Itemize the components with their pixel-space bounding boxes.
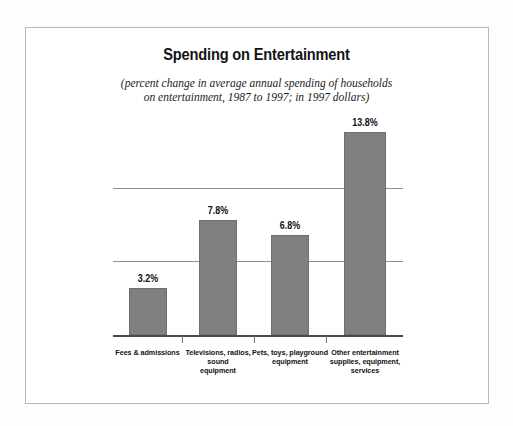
category-label: Other entertainment supplies, equipment,… bbox=[325, 348, 405, 376]
bar-value-label: 7.8% bbox=[208, 204, 228, 216]
bar-value-label: 6.8% bbox=[280, 219, 300, 231]
bar-value-label: 13.8% bbox=[352, 116, 377, 128]
category-label-line: services bbox=[351, 366, 379, 375]
bar-group: 3.2% bbox=[113, 110, 182, 335]
chart-figure: Spending on Entertainment (percent chang… bbox=[0, 0, 513, 426]
category-label-line: equipment bbox=[200, 366, 236, 375]
plot-area: 3.2% 7.8% 6.8% 13.8% Fees & admissions T… bbox=[113, 110, 403, 336]
x-axis-line bbox=[113, 335, 403, 337]
bar[interactable] bbox=[199, 220, 237, 335]
category-label: Pets, toys, playground equipment bbox=[249, 348, 331, 366]
bar[interactable] bbox=[129, 288, 167, 335]
category-label-line: Other entertainment bbox=[331, 348, 399, 357]
category-label-line: Fees & admissions bbox=[115, 348, 179, 357]
chart-subtitle-line-1: (percent change in average annual spendi… bbox=[0, 76, 513, 90]
category-label-line: Televisions, radios, sound bbox=[185, 348, 250, 366]
bar[interactable] bbox=[271, 235, 309, 335]
bar-group: 6.8% bbox=[254, 110, 326, 335]
category-label-line: Pets, toys, playground bbox=[252, 348, 328, 357]
chart-subtitle: (percent change in average annual spendi… bbox=[0, 76, 513, 104]
category-label-line: equipment bbox=[272, 357, 308, 366]
chart-title: Spending on Entertainment bbox=[36, 45, 477, 65]
category-label-line: supplies, equipment, bbox=[330, 357, 401, 366]
bar-group: 7.8% bbox=[182, 110, 254, 335]
chart-subtitle-line-2: on entertainment, 1987 to 1997; in 1997 … bbox=[0, 90, 513, 104]
axis-tick bbox=[254, 336, 255, 343]
bar[interactable] bbox=[344, 132, 386, 335]
axis-tick bbox=[182, 336, 183, 343]
bar-value-label: 3.2% bbox=[137, 272, 157, 284]
axis-tick bbox=[326, 336, 327, 343]
bar-group: 13.8% bbox=[326, 110, 403, 335]
